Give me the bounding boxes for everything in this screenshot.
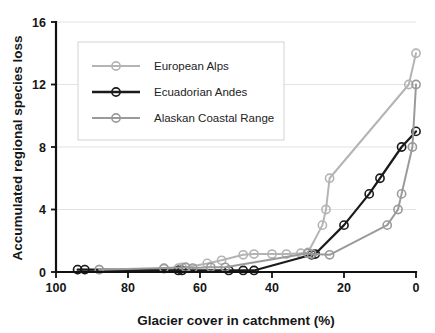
y-tick-label: 8 bbox=[39, 141, 46, 155]
legend-item-1[interactable]: Ecuadorian Andes bbox=[92, 86, 248, 98]
legend-item-label: European Alps bbox=[154, 60, 229, 72]
x-tick-label: 40 bbox=[265, 281, 279, 295]
series-line bbox=[78, 131, 416, 270]
legend-item-label: Alaskan Coastal Range bbox=[154, 112, 274, 124]
y-tick-label: 16 bbox=[32, 16, 46, 30]
chart-canvas: 1008060402000481216 European AlpsEcuador… bbox=[0, 0, 435, 333]
legend-item-label: Ecuadorian Andes bbox=[154, 86, 248, 98]
chart-figure: 1008060402000481216 European AlpsEcuador… bbox=[0, 0, 435, 333]
x-axis-title: Glacier cover in catchment (%) bbox=[137, 313, 334, 328]
x-tick-label: 0 bbox=[413, 281, 420, 295]
x-tick-label: 80 bbox=[121, 281, 135, 295]
y-tick-label: 4 bbox=[39, 203, 46, 217]
y-axis-title: Accumulated regional species loss bbox=[10, 35, 25, 260]
y-tick-label: 12 bbox=[32, 78, 46, 92]
x-tick-label: 60 bbox=[193, 281, 207, 295]
y-tick-label: 0 bbox=[39, 266, 46, 280]
legend[interactable]: European AlpsEcuadorian AndesAlaskan Coa… bbox=[78, 42, 284, 140]
x-tick-label: 20 bbox=[337, 281, 351, 295]
x-tick-label: 100 bbox=[46, 281, 67, 295]
